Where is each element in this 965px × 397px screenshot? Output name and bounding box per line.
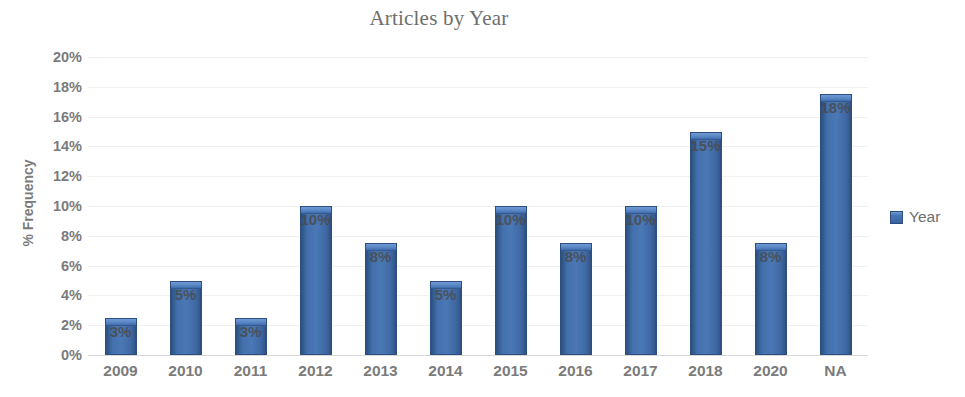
chart-title: Articles by Year [0,6,878,31]
bar[interactable]: 3% [235,318,267,355]
x-axis-tick-label: 2020 [753,362,787,380]
chart-legend: Year [890,208,940,226]
bar-slot: 3% [218,57,283,355]
bar-slot: 10% [478,57,543,355]
bar-top-cap [561,244,591,251]
y-axis-tick-label: 10% [28,198,82,214]
x-axis-tick-label: 2018 [688,362,722,380]
bar-slot: 8% [738,57,803,355]
y-axis-tick-labels: 0%2%4%6%8%10%12%14%16%18%20% [22,57,82,355]
bar[interactable]: 10% [625,206,657,355]
bar[interactable]: 5% [170,281,202,356]
bar-top-cap [431,282,461,289]
bar-slot: 5% [413,57,478,355]
y-axis-tick-label: 16% [28,109,82,125]
bar-slot: 10% [608,57,673,355]
y-axis-tick-label: 20% [28,49,82,65]
y-axis-tick-label: 14% [28,138,82,154]
x-axis-tick-label: 2012 [298,362,332,380]
x-axis-tick-label: 2009 [103,362,137,380]
bar-slot: 15% [673,57,738,355]
bar-slot: 8% [543,57,608,355]
x-axis-tick-label: NA [824,362,846,380]
y-axis-tick-label: 8% [28,228,82,244]
y-axis-tick-label: 6% [28,258,82,274]
bar-top-cap [366,244,396,251]
bar[interactable]: 8% [560,243,592,355]
bar-top-cap [496,207,526,214]
bar[interactable]: 10% [300,206,332,355]
bar-top-cap [106,319,136,326]
bar[interactable]: 15% [690,132,722,356]
articles-by-year-chart: Articles by Year % Frequency 0%2%4%6%8%1… [0,0,965,397]
x-axis-tick-label: 2013 [363,362,397,380]
bar-top-cap [171,282,201,289]
bar[interactable]: 8% [365,243,397,355]
bar-slot: 3% [88,57,153,355]
bar[interactable]: 5% [430,281,462,356]
bar-slot: 18% [803,57,868,355]
legend-entry-label: Year [909,208,940,226]
y-axis-tick-label: 4% [28,287,82,303]
y-axis-tick-label: 0% [28,347,82,363]
bar[interactable]: 18% [820,94,852,355]
legend-square-icon [890,211,903,224]
x-axis-tick-labels: 2009201020112012201320142015201620172018… [88,362,868,392]
plot-area: 3%5%3%10%8%5%10%8%10%15%8%18% [88,57,868,355]
bar[interactable]: 3% [105,318,137,355]
x-axis-tick-label: 2016 [558,362,592,380]
bar-top-cap [236,319,266,326]
bar-top-cap [821,95,851,102]
x-axis-tick-label: 2014 [428,362,462,380]
x-axis-tick-label: 2017 [623,362,657,380]
y-axis-tick-label: 2% [28,317,82,333]
bar-slot: 10% [283,57,348,355]
x-axis-tick-label: 2011 [234,362,268,380]
bar-slot: 8% [348,57,413,355]
x-axis-tick-label: 2010 [168,362,202,380]
bar-top-cap [626,207,656,214]
bar[interactable]: 10% [495,206,527,355]
bar-slot: 5% [153,57,218,355]
y-axis-tick-label: 12% [28,168,82,184]
gridline [88,355,868,356]
bar-top-cap [756,244,786,251]
bar-top-cap [691,133,721,140]
bar-top-cap [301,207,331,214]
x-axis-tick-label: 2015 [493,362,527,380]
bar[interactable]: 8% [755,243,787,355]
y-axis-tick-label: 18% [28,79,82,95]
